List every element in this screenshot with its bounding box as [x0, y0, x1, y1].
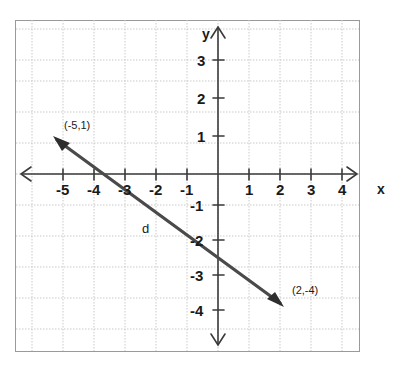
- point-label-start: (-5,1): [64, 120, 90, 131]
- segment-name-label: d: [142, 222, 149, 235]
- y-axis-label: y: [202, 27, 210, 41]
- x-tick-label-neg1: -1: [180, 182, 193, 197]
- x-tick-label-4: 4: [338, 182, 346, 197]
- x-tick-label-neg5: -5: [56, 182, 69, 197]
- y-tick-label-2: 2: [197, 91, 205, 106]
- point-label-end: (2,-4): [292, 285, 318, 296]
- y-tick-label-neg3: -3: [190, 268, 203, 283]
- y-tick-label-neg4: -4: [190, 303, 203, 318]
- coordinate-plane-figure: -5 -4 -3 -2 -1 1 2 3 4 3 2 1 -1 -2 -3 -4…: [0, 0, 401, 369]
- x-tick-label-neg2: -2: [149, 182, 162, 197]
- y-tick-label-neg2: -2: [190, 233, 203, 248]
- x-tick-label-neg4: -4: [87, 182, 100, 197]
- x-tick-label-1: 1: [245, 182, 253, 197]
- x-tick-label-neg3: -3: [118, 182, 131, 197]
- x-tick-label-3: 3: [307, 182, 315, 197]
- x-axis-label: x: [377, 182, 385, 196]
- segment-d-line: [57, 140, 280, 303]
- y-tick-label-3: 3: [197, 53, 205, 68]
- y-tick-label-1: 1: [197, 129, 205, 144]
- y-tick-label-neg1: -1: [190, 198, 203, 213]
- x-tick-label-2: 2: [276, 182, 284, 197]
